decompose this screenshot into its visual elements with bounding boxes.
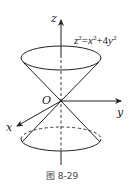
lower-cone-left-edge: [22, 101, 61, 142]
z-axis-label: z: [50, 12, 57, 25]
upper-cone-right-edge: [61, 62, 99, 101]
y-axis-label: y: [116, 106, 124, 119]
x-axis-label: x: [6, 121, 13, 134]
x-axis: [17, 101, 61, 126]
eq-t2-exp: 2: [113, 34, 117, 42]
origin-point: [60, 100, 63, 103]
figure-caption: 图 8-29: [46, 171, 79, 181]
lower-cone-right-edge: [61, 101, 100, 142]
cone-diagram: z y x O z2=x2+4y2 图 8-29: [0, 0, 140, 190]
cone-equation: z2=x2+4y2: [73, 34, 117, 46]
origin-label: O: [42, 94, 51, 107]
